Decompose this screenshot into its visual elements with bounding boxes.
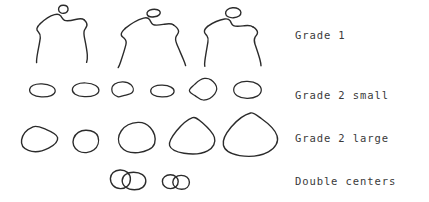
- figure-canvas: Grade 1 Grade 2 small Grade 2 large Doub…: [0, 0, 429, 202]
- small-oval-2: [72, 83, 99, 97]
- row-grade-1-shapes: [37, 5, 261, 67]
- large-shape-2: [73, 130, 99, 152]
- small-oval-5: [189, 78, 216, 100]
- row-label-grade-2-small: Grade 2 small: [295, 90, 389, 101]
- double-center-pair-1: [110, 170, 145, 190]
- row-label-double-centers: Double centers: [295, 176, 396, 187]
- row-grade-2-large-shapes: [21, 113, 277, 156]
- row-grade-2-small-shapes: [30, 78, 262, 100]
- large-shape-5: [223, 113, 277, 156]
- small-oval-3: [112, 82, 133, 97]
- small-oval-1: [30, 84, 56, 97]
- row-label-grade-1: Grade 1: [295, 30, 346, 41]
- large-shape-1: [21, 126, 57, 151]
- small-oval-4: [151, 85, 174, 97]
- torso-shape-2: [118, 9, 185, 67]
- small-oval-6: [234, 81, 262, 98]
- torso-shape-1: [37, 5, 88, 62]
- torso-shape-3: [204, 8, 261, 67]
- large-shape-3: [119, 122, 156, 152]
- row-double-centers-shapes: [110, 170, 189, 190]
- hand-drawn-shapes-illustration: [0, 0, 429, 202]
- large-shape-4: [169, 117, 214, 153]
- double-center-pair-2: [162, 175, 189, 189]
- row-label-grade-2-large: Grade 2 large: [295, 133, 389, 144]
